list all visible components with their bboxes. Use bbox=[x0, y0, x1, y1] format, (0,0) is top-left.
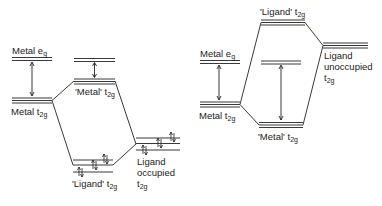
left-metal-eg-level bbox=[12, 58, 52, 61]
right-splitting-arrow bbox=[217, 65, 221, 100]
right-ligand-unoccupied-label: Ligand unoccupied t2g bbox=[324, 50, 373, 84]
left-metal-t2g-level bbox=[12, 98, 52, 103]
left-splitting-arrow bbox=[30, 62, 34, 96]
left-mo-ligand-t2g-label: 'Ligand' t2g bbox=[72, 178, 117, 190]
right-mo-metal-t2g-level bbox=[259, 123, 303, 128]
right-mo-ligand-t2g-label: 'Ligand' t2g bbox=[260, 6, 305, 18]
right-mo-splitting-arrow bbox=[279, 65, 283, 120]
left-ligand-occupied-label: Ligand occupied t2g bbox=[137, 156, 175, 190]
right-ligand-unoccupied-t2g-level bbox=[323, 43, 368, 48]
left-metal-t2g-label: Metal t2g bbox=[11, 106, 47, 118]
right-metal-t2g-label: Metal t2g bbox=[199, 110, 235, 122]
right-metal-t2g-level bbox=[200, 102, 240, 107]
right-correlation-lines bbox=[240, 23, 323, 126]
right-mo-metal-t2g-label: 'Metal' t2g bbox=[258, 131, 298, 143]
right-mo-eg-level bbox=[261, 61, 301, 64]
left-mo-metal-t2g-label: 'Metal' t2g bbox=[75, 86, 115, 98]
right-metal-eg-label: Metal eg bbox=[200, 48, 235, 60]
left-mo-splitting-arrow bbox=[93, 63, 97, 78]
left-mo-eg-level bbox=[74, 59, 115, 62]
right-metal-eg-level bbox=[200, 61, 240, 64]
left-mo-metal-t2g-level bbox=[74, 79, 115, 84]
right-mo-ligand-t2g-level bbox=[261, 20, 305, 25]
mo-diagram-lines bbox=[0, 0, 382, 206]
left-metal-eg-label: Metal eg bbox=[12, 45, 47, 57]
left-mo-electron-pairs bbox=[78, 154, 109, 177]
